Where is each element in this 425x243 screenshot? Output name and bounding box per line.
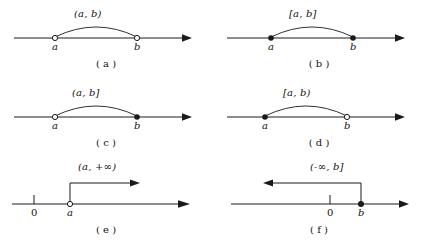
panel-caption: ( e ) xyxy=(0,224,212,235)
left-endpoint-open-circle-icon xyxy=(67,201,72,206)
right-endpoint-filled-dot-icon xyxy=(350,35,356,41)
axis-arrowhead-right xyxy=(399,200,409,208)
left-endpoint-label: a xyxy=(67,207,73,218)
left-endpoint-filled-dot-icon xyxy=(262,114,268,120)
panel-caption: ( f ) xyxy=(213,224,425,235)
interval-arc xyxy=(265,106,347,116)
right-endpoint-filled-dot-icon xyxy=(134,114,140,120)
zero-tick-label: 0 xyxy=(327,207,333,218)
interval-arc xyxy=(55,27,137,37)
right-endpoint-open-circle-icon xyxy=(134,35,139,40)
left-endpoint-label: a xyxy=(52,41,58,52)
interval-arc xyxy=(55,106,137,116)
panel-caption: ( d ) xyxy=(213,137,425,148)
panel-c: (a, b] a b ( c ) xyxy=(0,72,212,153)
right-endpoint-label: b xyxy=(358,207,364,218)
axis-arrowhead-right xyxy=(182,113,192,121)
left-endpoint-open-circle-icon xyxy=(52,114,57,119)
panel-f: (-∞, b] 0 b ( f ) xyxy=(213,152,425,233)
panel-caption: ( c ) xyxy=(0,137,212,148)
right-endpoint-label: b xyxy=(134,41,140,52)
interval-label: [a, b] xyxy=(289,8,317,19)
right-endpoint-label: b xyxy=(134,120,140,131)
left-endpoint-filled-dot-icon xyxy=(268,35,274,41)
interval-notation-figure: (a, b) a b ( a ) [a, b] a b ( b ) (a, b]… xyxy=(0,0,425,243)
interval-label: (a, b) xyxy=(74,8,102,19)
panel-caption: ( b ) xyxy=(213,58,425,69)
left-endpoint-label: a xyxy=(52,120,58,131)
axis-arrowhead-right xyxy=(395,113,405,121)
interval-label: [a, b) xyxy=(283,87,311,98)
panel-d: [a, b) a b ( d ) xyxy=(213,72,425,153)
right-endpoint-open-circle-icon xyxy=(344,114,349,119)
panel-a: (a, b) a b ( a ) xyxy=(0,0,212,81)
panel-b: [a, b] a b ( b ) xyxy=(213,0,425,81)
ray-arrowhead-left xyxy=(263,179,273,186)
right-endpoint-label: b xyxy=(350,41,356,52)
panel-caption: ( a ) xyxy=(0,58,212,69)
left-endpoint-label: a xyxy=(262,120,268,131)
interval-arc xyxy=(271,27,353,37)
left-endpoint-open-circle-icon xyxy=(52,35,57,40)
axis-arrowhead-right xyxy=(182,34,192,42)
axis-arrowhead-right xyxy=(178,200,190,208)
axis-arrowhead-right xyxy=(395,34,405,42)
ray-arrowhead-right xyxy=(130,179,140,186)
interval-label: (a, +∞) xyxy=(78,161,116,172)
zero-tick-label: 0 xyxy=(31,207,37,218)
panel-e: (a, +∞) 0 a ( e ) xyxy=(0,152,212,233)
right-endpoint-label: b xyxy=(344,120,350,131)
left-endpoint-label: a xyxy=(268,41,274,52)
interval-label: (-∞, b] xyxy=(310,161,344,172)
interval-label: (a, b] xyxy=(72,87,100,98)
